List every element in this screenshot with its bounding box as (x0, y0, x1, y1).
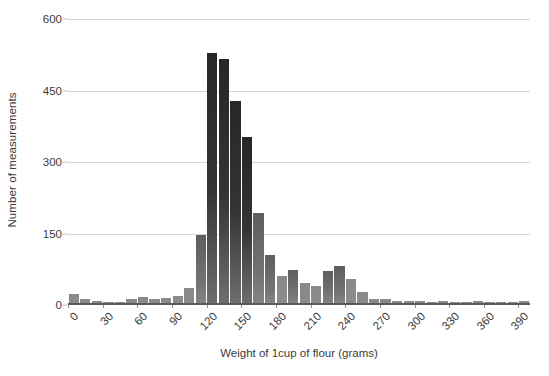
y-tick-label: 0 (22, 299, 62, 311)
bar (346, 279, 356, 304)
bar (173, 296, 183, 303)
x-tick-mark (207, 305, 208, 308)
x-tick-label: 120 (179, 310, 219, 350)
bar (323, 271, 333, 303)
x-tick-label: 360 (457, 310, 497, 350)
x-tick-mark (484, 305, 485, 308)
histogram-chart: Number of measurements 0150300450600 030… (0, 0, 549, 376)
bar (334, 266, 344, 303)
x-tick-mark (345, 305, 346, 308)
bar (311, 286, 321, 304)
x-tick-mark (68, 305, 69, 308)
x-tick-label: 330 (422, 310, 462, 350)
bar (184, 288, 194, 304)
x-tick-label: 0 (41, 310, 81, 350)
x-tick-label: 300 (387, 310, 427, 350)
x-tick-mark (172, 305, 173, 308)
bar (207, 53, 217, 303)
bar-series (68, 19, 530, 305)
x-tick-label: 270 (353, 310, 393, 350)
bar (300, 283, 310, 303)
y-axis-title-text: Number of measurements (6, 92, 18, 227)
x-tick-mark (137, 305, 138, 308)
bar (69, 294, 79, 304)
x-axis-title: Weight of 1cup of flour (grams) (68, 347, 530, 359)
bar (277, 276, 287, 304)
y-tick-label: 300 (22, 156, 62, 168)
x-tick-label: 60 (110, 310, 150, 350)
x-tick-mark (449, 305, 450, 308)
y-tick-label: 600 (22, 13, 62, 25)
x-tick-label: 90 (145, 310, 185, 350)
x-tick-label: 30 (76, 310, 116, 350)
plot-area (68, 19, 530, 305)
y-tick-label: 450 (22, 85, 62, 97)
x-tick-mark (103, 305, 104, 308)
x-tick-mark (276, 305, 277, 308)
bar (196, 235, 206, 303)
x-tick-mark (380, 305, 381, 308)
x-tick-label: 150 (214, 310, 254, 350)
x-tick-label: 390 (491, 310, 531, 350)
bar (288, 270, 298, 303)
bar (253, 213, 263, 304)
bar (230, 101, 240, 304)
bar (219, 59, 229, 303)
x-tick-mark (415, 305, 416, 308)
bar (357, 292, 367, 304)
y-axis-title: Number of measurements (0, 0, 24, 320)
bar (265, 255, 275, 304)
x-tick-label: 210 (283, 310, 323, 350)
x-tick-mark (518, 305, 519, 308)
x-tick-label: 240 (318, 310, 358, 350)
x-tick-label: 180 (249, 310, 289, 350)
x-tick-mark (241, 305, 242, 308)
bar (242, 137, 252, 304)
x-tick-mark (311, 305, 312, 308)
y-tick-label: 150 (22, 228, 62, 240)
